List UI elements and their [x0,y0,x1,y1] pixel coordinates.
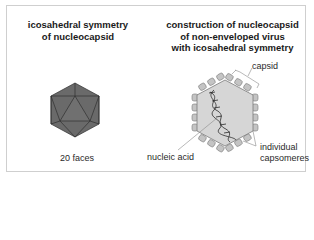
capsomeres-label-line-1: individual [260,142,309,153]
capsomeres-label: individual capsomeres [260,142,309,163]
capsomeres-label-line-2: capsomeres [260,153,309,164]
capsid-label: capsid [252,61,278,72]
capsid-diagram [178,68,259,153]
nucleic-acid-label: nucleic acid [147,152,194,163]
icosahedron-icon [51,83,99,137]
faces-caption: 20 faces [60,153,94,164]
